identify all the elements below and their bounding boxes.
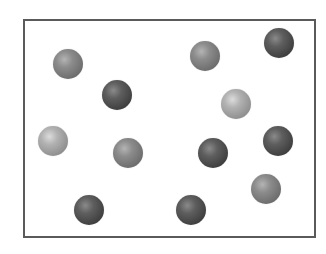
particle-sphere-light xyxy=(221,89,251,119)
particle-sphere-medium xyxy=(190,41,220,71)
particle-sphere-medium xyxy=(251,174,281,204)
particle-sphere-dark xyxy=(74,195,104,225)
particle-sphere-light xyxy=(38,126,68,156)
particle-sphere-dark xyxy=(263,126,293,156)
particle-sphere-dark xyxy=(102,80,132,110)
particle-sphere-medium xyxy=(53,49,83,79)
particle-sphere-dark xyxy=(176,195,206,225)
particle-sphere-dark xyxy=(264,28,294,58)
particle-sphere-medium xyxy=(113,138,143,168)
particle-sphere-dark xyxy=(198,138,228,168)
